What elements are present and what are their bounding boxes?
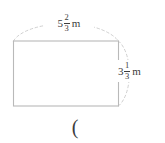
height-denominator: 3 [124,72,130,81]
height-whole-number: 3 [118,66,124,77]
height-dimension-label: 313m [117,60,165,82]
height-unit: m [132,66,141,77]
width-dimension-label: 523m [44,12,94,34]
stray-parenthesis-text: ( [62,113,88,141]
width-unit: m [72,18,81,29]
width-whole-number: 5 [58,18,64,29]
height-numerator: 1 [124,61,130,70]
width-denominator: 3 [64,24,70,33]
width-fraction: 23 [64,13,70,33]
rectangle-shape [14,41,119,106]
geometry-figure: 523m 313m ( [0,0,165,143]
width-numerator: 2 [64,13,70,22]
height-fraction: 13 [124,61,130,81]
